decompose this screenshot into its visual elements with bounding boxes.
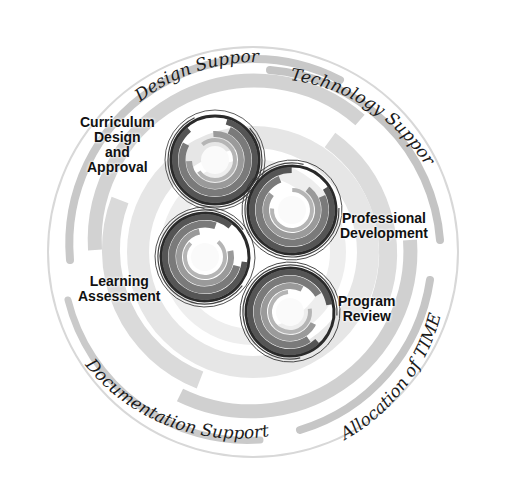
swirl-background: Design Support Technology Support Docume… <box>0 0 506 502</box>
node-learning-label: Learning Assessment <box>78 274 161 304</box>
text-line: Development <box>340 226 428 241</box>
text-line: Design <box>80 130 155 145</box>
text-line: Learning <box>78 274 161 289</box>
text-line: Professional <box>340 211 428 226</box>
diagram-canvas: Design Support Technology Support Docume… <box>0 0 506 502</box>
text-line: Program <box>338 294 396 309</box>
node-professional-label: Professional Development <box>340 211 428 241</box>
node-curriculum-label: Curriculum Design and Approval <box>80 115 155 175</box>
text-line: Assessment <box>78 289 161 304</box>
text-line: and <box>80 145 155 160</box>
text-line: Curriculum <box>80 115 155 130</box>
node-program-label: Program Review <box>338 294 396 324</box>
text-line: Review <box>338 309 396 324</box>
text-line: Approval <box>80 160 155 175</box>
